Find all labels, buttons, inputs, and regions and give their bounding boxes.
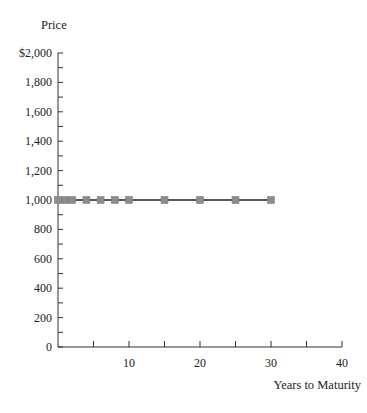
data-point-marker [126,197,133,204]
data-point-marker [97,197,104,204]
series-bond-price [55,197,275,204]
x-tick-label: 10 [123,356,135,370]
y-tick-label: 1,400 [25,134,52,148]
y-axis-title: Price [41,18,67,32]
x-axis-title: Years to Maturity [273,378,361,392]
data-point-marker [55,197,62,204]
data-point-marker [69,197,76,204]
y-tick-label: 0 [46,340,52,354]
bond-price-chart: 02004006008001,0001,2001,4001,6001,800$2… [0,0,367,413]
x-tick-label: 40 [336,356,348,370]
y-tick-label: $2,000 [19,46,52,60]
x-tick-label: 30 [265,356,277,370]
data-point-marker [111,197,118,204]
y-tick-label: 800 [34,222,52,236]
y-tick-label: 1,000 [25,193,52,207]
data-point-marker [197,197,204,204]
y-tick-label: 1,600 [25,105,52,119]
y-tick-label: 600 [34,252,52,266]
axes: 02004006008001,0001,2001,4001,6001,800$2… [19,46,348,370]
data-point-marker [268,197,275,204]
y-tick-label: 400 [34,281,52,295]
data-point-marker [232,197,239,204]
data-point-marker [83,197,90,204]
y-tick-label: 200 [34,311,52,325]
y-tick-label: 1,800 [25,75,52,89]
y-tick-label: 1,200 [25,164,52,178]
data-point-marker [161,197,168,204]
x-tick-label: 20 [194,356,206,370]
data-point-marker [62,197,69,204]
